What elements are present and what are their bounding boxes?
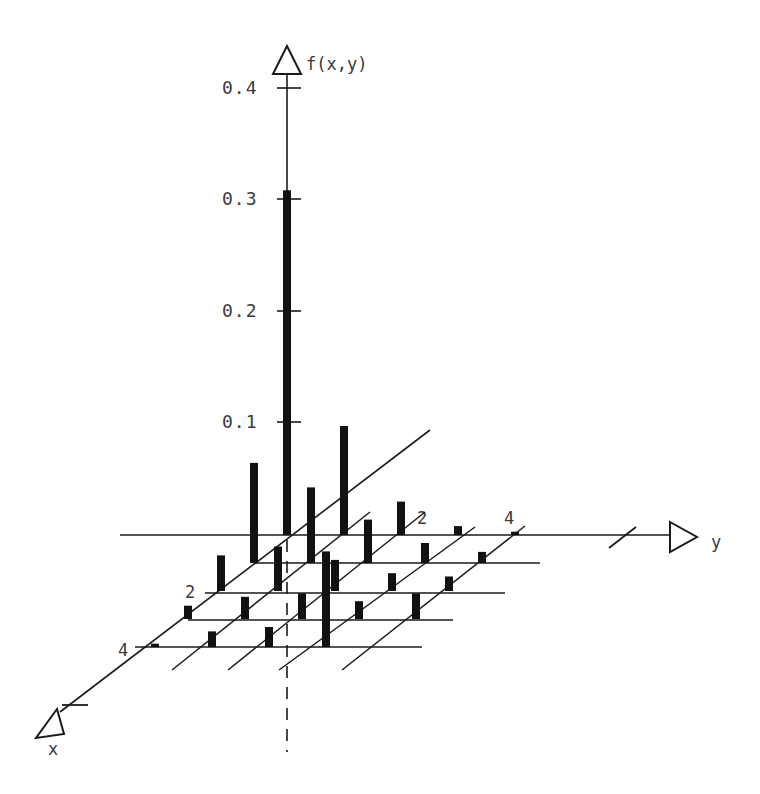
bar [208, 631, 216, 647]
z-tick-label: 0.1 [222, 411, 258, 432]
bars [151, 190, 519, 647]
bar [511, 532, 519, 535]
bar [454, 526, 462, 535]
x-axis-arrow-icon [36, 709, 64, 738]
bar [355, 601, 363, 619]
bar [421, 543, 429, 563]
x-axis-label: x [48, 739, 58, 759]
y-tick-label: 4 [504, 508, 514, 528]
bar [250, 463, 258, 563]
bar [265, 627, 273, 647]
x-tick-label: 4 [118, 640, 128, 660]
z-axis-arrow-icon [273, 46, 301, 74]
x-tick-label: 2 [185, 582, 195, 602]
bar [322, 551, 330, 647]
bar [331, 560, 339, 591]
bar [217, 555, 225, 591]
bar [397, 502, 405, 535]
bar [307, 487, 315, 563]
bar [412, 593, 420, 619]
x-axis: x 2 4 [36, 430, 430, 759]
y-axis-label: y [711, 532, 721, 552]
z-tick-label: 0.2 [222, 300, 258, 321]
z-axis-label: f(x,y) [306, 54, 367, 74]
bar [241, 597, 249, 619]
z-tick-label: 0.4 [222, 77, 258, 98]
z-axis: f(x,y) 0.1 0.2 0.3 0.4 [222, 46, 367, 752]
y-axis-break-mark [609, 527, 636, 548]
bar [478, 552, 486, 563]
z-tick-label: 0.3 [222, 188, 258, 209]
bar [298, 593, 306, 619]
bar [274, 547, 282, 592]
bar [151, 644, 159, 647]
bar [184, 606, 192, 619]
bar [340, 426, 348, 535]
probability-bar-chart-3d: f(x,y) 0.1 0.2 0.3 0.4 y 2 4 x 2 4 [0, 0, 760, 794]
bar [364, 520, 372, 563]
bar [388, 573, 396, 591]
bar [283, 190, 291, 535]
y-axis-arrow-icon [670, 522, 697, 552]
bar [445, 577, 453, 592]
